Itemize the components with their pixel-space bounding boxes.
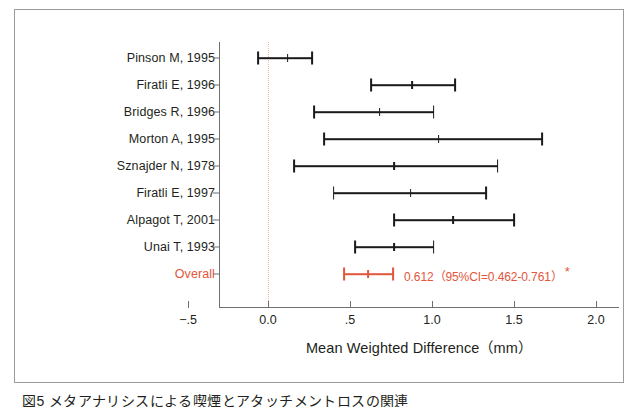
forest-plot-figure: Pinson M, 1995 Firatli E, 1996 Bridges R…	[0, 0, 639, 407]
figure-caption: 図5 メタアナリシスによる喫煙とアタッチメントロスの関連	[22, 390, 622, 407]
figure-border	[14, 9, 624, 383]
